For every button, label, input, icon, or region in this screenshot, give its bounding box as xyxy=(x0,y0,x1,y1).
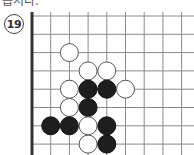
black-stone xyxy=(60,117,78,135)
go-board xyxy=(0,0,194,155)
black-stone xyxy=(98,135,116,153)
black-stone xyxy=(79,80,97,98)
white-stone xyxy=(98,62,116,80)
white-stone xyxy=(79,135,97,153)
black-stone xyxy=(42,117,60,135)
white-stone xyxy=(79,62,97,80)
white-stone xyxy=(60,44,78,62)
black-stone xyxy=(98,80,116,98)
black-stone xyxy=(98,117,116,135)
white-stone xyxy=(79,117,97,135)
white-stone xyxy=(60,80,78,98)
white-stone xyxy=(60,99,78,117)
white-stone xyxy=(117,80,135,98)
black-stone xyxy=(79,99,97,117)
